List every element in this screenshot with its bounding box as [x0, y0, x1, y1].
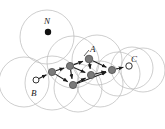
edge-B-n1 — [39, 75, 46, 79]
coverage-circle-1 — [0, 57, 49, 107]
label-N: N — [44, 17, 50, 26]
node-n6 — [108, 66, 115, 73]
node-n5 — [87, 71, 94, 78]
node-n4 — [69, 81, 76, 88]
edge-n2-n4 — [71, 70, 72, 79]
coverage-circle-9 — [121, 48, 165, 92]
coverage-circle-4 — [54, 64, 102, 112]
coverage-circle-5 — [72, 35, 122, 85]
edge-n3-n5 — [90, 63, 91, 69]
label-C: C — [131, 55, 137, 64]
node-n2 — [66, 62, 73, 69]
node-n3 — [85, 55, 93, 63]
figure-canvas: N A B C — [0, 0, 165, 129]
label-A: A — [90, 45, 96, 54]
node-dot_N — [45, 29, 51, 35]
diagram-svg — [0, 0, 165, 129]
label-B: B — [31, 89, 37, 98]
node-B — [33, 77, 39, 83]
edge-n1-n4 — [55, 74, 67, 82]
coverage-circle-6 — [77, 61, 123, 107]
node-n1 — [48, 68, 55, 75]
